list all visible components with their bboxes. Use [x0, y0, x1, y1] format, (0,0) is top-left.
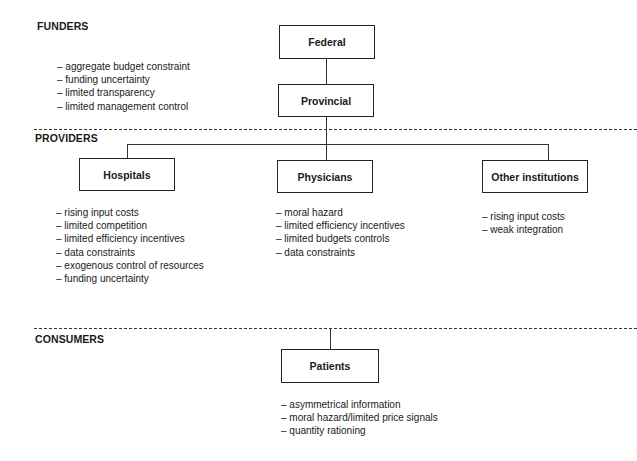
patients-issue: – moral hazard/limited price signals: [281, 411, 438, 424]
other-institutions-issue: – weak integration: [482, 223, 565, 236]
connector-bus-other-institutions: [548, 144, 549, 160]
node-physicians-label: Physicians: [298, 171, 353, 183]
connector-providers-bus: [127, 144, 549, 145]
funders-issue: – aggregate budget constraint: [57, 60, 190, 73]
section-label-consumers: CONSUMERS: [35, 333, 104, 345]
connector-federal-provincial: [326, 59, 327, 84]
connector-provincial-providers: [326, 117, 327, 160]
physicians-issue: – limited efficiency incentives: [276, 219, 405, 232]
node-hospitals: Hospitals: [79, 158, 175, 191]
physicians-issues-list: – moral hazard – limited efficiency ince…: [276, 206, 405, 259]
patients-issues-list: – asymmetrical information – moral hazar…: [281, 398, 438, 438]
hospitals-issue: – rising input costs: [56, 206, 204, 219]
node-federal: Federal: [279, 25, 375, 59]
physicians-issue: – limited budgets controls: [276, 232, 405, 245]
node-patients: Patients: [281, 349, 379, 383]
node-other-institutions-label: Other institutions: [491, 171, 579, 183]
node-other-institutions: Other institutions: [482, 160, 588, 193]
separator-providers-consumers: [34, 328, 637, 329]
hospitals-issue: – funding uncertainty: [56, 272, 204, 285]
section-label-providers: PROVIDERS: [35, 132, 98, 144]
funders-issues-list: – aggregate budget constraint – funding …: [57, 60, 190, 113]
node-provincial: Provincial: [278, 84, 374, 117]
patients-issue: – quantity rationing: [281, 424, 438, 437]
funders-issue: – funding uncertainty: [57, 73, 190, 86]
node-hospitals-label: Hospitals: [103, 169, 150, 181]
connector-separator-patients: [330, 329, 331, 349]
physicians-issue: – moral hazard: [276, 206, 405, 219]
hospitals-issue: – data constraints: [56, 246, 204, 259]
physicians-issue: – data constraints: [276, 246, 405, 259]
other-institutions-issues-list: – rising input costs – weak integration: [482, 210, 565, 236]
funders-issue: – limited transparency: [57, 86, 190, 99]
node-physicians: Physicians: [277, 160, 373, 193]
node-provincial-label: Provincial: [301, 95, 351, 107]
node-federal-label: Federal: [308, 36, 345, 48]
node-patients-label: Patients: [310, 360, 351, 372]
other-institutions-issue: – rising input costs: [482, 210, 565, 223]
hospitals-issues-list: – rising input costs – limited competiti…: [56, 206, 204, 285]
hospitals-issue: – exogenous control of resources: [56, 259, 204, 272]
hospitals-issue: – limited competition: [56, 219, 204, 232]
patients-issue: – asymmetrical information: [281, 398, 438, 411]
section-label-funders: FUNDERS: [37, 20, 88, 32]
separator-funders-providers: [34, 129, 637, 130]
funders-issue: – limited management control: [57, 100, 190, 113]
hospitals-issue: – limited efficiency incentives: [56, 232, 204, 245]
connector-bus-hospitals: [127, 144, 128, 159]
